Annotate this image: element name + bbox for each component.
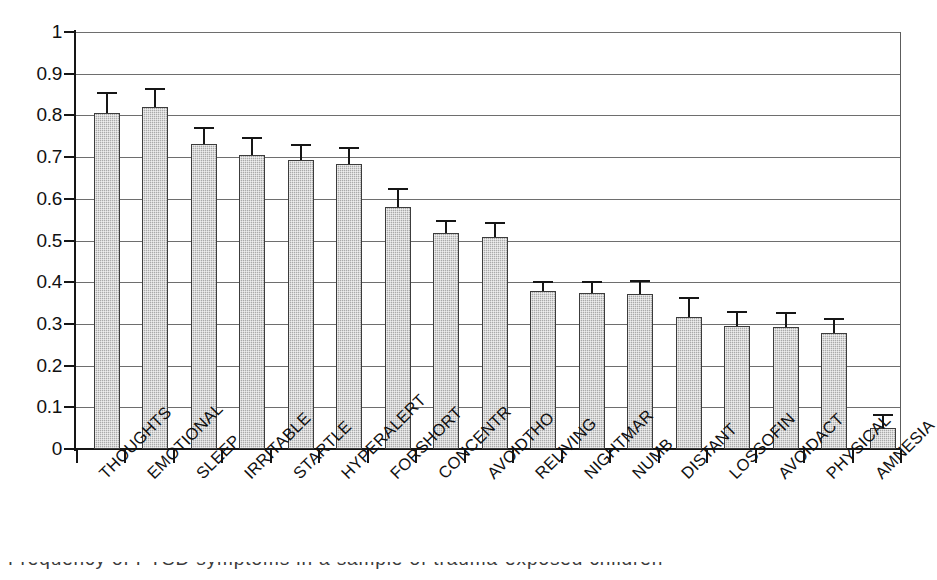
error-bar-cap — [339, 147, 359, 149]
y-axis-tick-mark — [64, 406, 76, 408]
error-bar-cap — [242, 137, 262, 139]
error-bar-stem — [348, 147, 350, 165]
y-axis-tick-label: 0.6 — [4, 189, 62, 208]
error-bar-cap — [582, 281, 602, 283]
y-axis-tick-label: 0.3 — [4, 314, 62, 333]
y-axis-tick-mark — [64, 73, 76, 75]
gridline — [76, 74, 900, 75]
bar — [336, 164, 362, 449]
bar — [142, 107, 168, 449]
error-bar-cap — [388, 188, 408, 190]
error-bar-cap — [776, 312, 796, 314]
error-bar-cap — [824, 318, 844, 320]
y-axis-tick-mark — [64, 365, 76, 367]
error-bar-stem — [251, 137, 253, 155]
y-axis-tick-mark — [64, 323, 76, 325]
error-bar-cap — [145, 88, 165, 90]
error-bar-stem — [397, 188, 399, 207]
error-bar-stem — [833, 318, 835, 333]
y-axis-tick-label: 0 — [4, 439, 62, 458]
gridline — [76, 32, 900, 33]
error-bar-cap — [727, 311, 747, 313]
y-axis-tick-mark — [64, 156, 76, 158]
y-axis-tick-mark — [64, 240, 76, 242]
y-axis-tick-label: 0.2 — [4, 356, 62, 375]
plot-right-border — [900, 32, 901, 450]
figure-caption: Frequency of PTSD symptoms in a sample o… — [8, 562, 663, 568]
y-axis-tick-label: 0.4 — [4, 272, 62, 291]
error-bar-stem — [106, 92, 108, 113]
y-axis-tick-label: 1 — [4, 22, 62, 41]
figure-caption-strip: Frequency of PTSD symptoms in a sample o… — [0, 562, 924, 580]
gridline — [76, 115, 900, 116]
plot-area — [76, 32, 900, 449]
y-axis-tick-mark — [64, 31, 76, 33]
error-bar-stem — [688, 297, 690, 317]
error-bar-cap — [97, 92, 117, 94]
error-bar-cap — [436, 220, 456, 222]
error-bar-cap — [485, 222, 505, 224]
y-axis-tick-mark — [64, 198, 76, 200]
bar — [288, 160, 314, 449]
bar — [239, 155, 265, 449]
bar — [94, 113, 120, 449]
y-axis-tick-mark — [64, 114, 76, 116]
y-axis-tick-mark — [64, 281, 76, 283]
y-axis-tick-labels: 10.90.80.70.60.50.40.30.20.10 — [0, 0, 62, 580]
y-axis-tick-label: 0.8 — [4, 105, 62, 124]
y-axis-tick-label: 0.9 — [4, 64, 62, 83]
error-bar-stem — [494, 222, 496, 237]
error-bar-cap — [630, 280, 650, 282]
bar — [676, 317, 702, 449]
error-bar-stem — [639, 280, 641, 294]
error-bar-cap — [679, 297, 699, 299]
error-bar-cap — [533, 281, 553, 283]
error-bar-stem — [300, 144, 302, 160]
error-bar-cap — [291, 144, 311, 146]
error-bar-stem — [736, 311, 738, 326]
y-axis-tick-label: 0.7 — [4, 147, 62, 166]
y-axis-tick-label: 0.1 — [4, 397, 62, 416]
error-bar-stem — [154, 88, 156, 107]
y-axis-tick-label: 0.5 — [4, 231, 62, 250]
error-bar-stem — [785, 312, 787, 327]
error-bar-cap — [194, 127, 214, 129]
x-axis-tick-mark — [76, 450, 78, 463]
y-axis-tick-mark — [64, 448, 76, 450]
error-bar-stem — [203, 127, 205, 145]
